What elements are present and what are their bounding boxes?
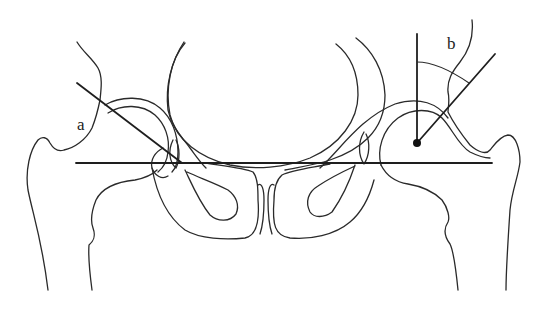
left-pubis-outer	[152, 163, 258, 239]
right-hip	[273, 20, 520, 290]
left-iliac-wing-outline	[27, 42, 101, 290]
right-pubis-outer	[273, 164, 374, 238]
label-b: b	[447, 34, 456, 53]
left-obturator-foramen	[185, 170, 238, 220]
femoral-head-center-dot	[413, 139, 421, 147]
line-a	[77, 83, 182, 163]
sacrum-outline	[168, 43, 358, 168]
label-a: a	[77, 115, 85, 134]
angle-b-arc	[417, 62, 469, 83]
left-ilium-inner-contour	[167, 42, 206, 168]
right-iliac-wing-outline	[448, 20, 520, 290]
left-femur-inner-edge	[89, 170, 157, 290]
pelvis-diagram: a b	[0, 0, 533, 314]
right-femur-inner-edge	[381, 165, 458, 290]
right-obturator-foramen	[308, 165, 355, 217]
right-ilium-inner-contour	[285, 38, 385, 170]
right-acetabular-lens	[360, 132, 369, 164]
right-femoral-head-inner	[380, 111, 490, 166]
left-hip	[27, 42, 258, 290]
